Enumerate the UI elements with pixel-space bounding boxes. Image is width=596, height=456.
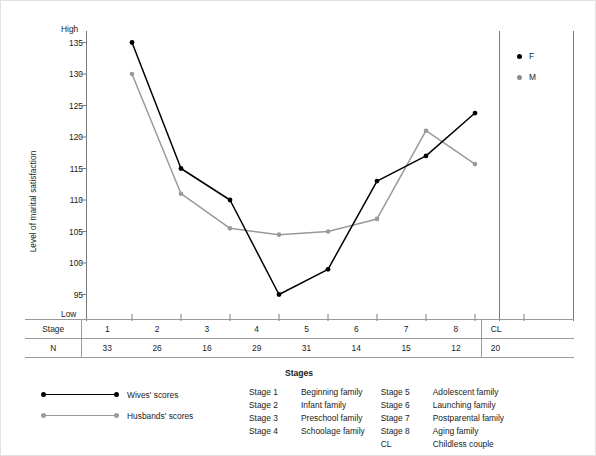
stage-definition-3-value: Preschool family xyxy=(301,413,362,423)
stage-definition-8-value: Aging family xyxy=(433,426,479,436)
y-tick-marks xyxy=(80,43,87,295)
fm-legend-item-m: M xyxy=(517,72,536,82)
table-cell-stage-4: 4 xyxy=(232,320,282,339)
data-point-f-stage-8 xyxy=(473,111,478,116)
table-rowheader-n: N xyxy=(25,339,82,358)
m-marker-icon xyxy=(517,75,522,80)
data-point-f-stage-6 xyxy=(375,179,380,184)
table-cell-n-3: 16 xyxy=(182,339,232,358)
table-cell-stage-8: 8 xyxy=(431,320,481,339)
table-cell-stage-cl: CL xyxy=(481,320,574,339)
stage-definition-3-key: Stage 3 xyxy=(249,413,301,423)
series-markers-wives xyxy=(130,40,478,297)
table-cell-n-8: 12 xyxy=(431,339,481,358)
stage-data-table: Stage 1 2 3 4 5 6 7 8 CL N 33 26 16 29 3… xyxy=(25,319,574,358)
stage-definition-7: Stage 7 Postparental family xyxy=(381,411,504,424)
stage-definition-4-value: Schoolage family xyxy=(301,426,365,436)
husbands-line-swatch-icon xyxy=(41,412,119,420)
data-point-f-stage-4 xyxy=(277,292,282,297)
x-axis-title: Stages xyxy=(1,368,596,378)
table-cell-n-2: 26 xyxy=(132,339,182,358)
data-point-m-stage-5 xyxy=(326,229,331,234)
table-cell-stage-2: 2 xyxy=(132,320,182,339)
table-cell-stage-6: 6 xyxy=(331,320,381,339)
stage-definitions-right-column: Stage 5 Adolescent family Stage 6 Launch… xyxy=(381,385,504,450)
stage-definitions: Stage 1 Beginning family Stage 2 Infant … xyxy=(249,385,504,450)
table-cell-stage-1: 1 xyxy=(82,320,132,339)
data-point-f-stage-7 xyxy=(424,154,429,159)
data-point-m-stage-3 xyxy=(228,226,233,231)
data-point-m-stage-2 xyxy=(179,191,184,196)
stage-definition-6-key: Stage 6 xyxy=(381,400,433,410)
table-cell-stage-7: 7 xyxy=(381,320,431,339)
stage-definition-1-value: Beginning family xyxy=(301,387,362,397)
wives-line-swatch-icon xyxy=(41,391,119,399)
stage-definition-1: Stage 1 Beginning family xyxy=(249,385,365,398)
stage-definition-5: Stage 5 Adolescent family xyxy=(381,385,504,398)
series-key-item-husbands: Husbands' scores xyxy=(41,405,193,426)
stage-definition-2-key: Stage 2 xyxy=(249,400,301,410)
series-key-label-wives: Wives' scores xyxy=(127,390,178,400)
stage-definition-2: Stage 2 Infant family xyxy=(249,398,365,411)
stage-definition-7-value: Postparental family xyxy=(433,413,504,423)
table-cell-n-cl: 20 xyxy=(481,339,574,358)
stage-definition-1-key: Stage 1 xyxy=(249,387,301,397)
data-point-f-stage-3 xyxy=(228,198,233,203)
stage-definition-cl: CL Childless couple xyxy=(381,437,504,450)
data-point-m-stage-4 xyxy=(277,232,282,237)
data-point-m-stage-7 xyxy=(424,128,429,133)
stage-definition-7-key: Stage 7 xyxy=(381,413,433,423)
table-cell-n-6: 14 xyxy=(331,339,381,358)
table-cell-n-1: 33 xyxy=(82,339,132,358)
series-key-item-wives: Wives' scores xyxy=(41,384,193,405)
series-key-label-husbands: Husbands' scores xyxy=(127,411,193,421)
stage-definition-cl-value: Childless couple xyxy=(433,439,494,449)
stage-definition-cl-key: CL xyxy=(381,439,433,449)
stage-definition-4: Stage 4 Schoolage family xyxy=(249,424,365,437)
table-cell-stage-5: 5 xyxy=(282,320,332,339)
stage-definition-5-value: Adolescent family xyxy=(433,387,499,397)
table-cell-n-4: 29 xyxy=(232,339,282,358)
data-point-f-stage-5 xyxy=(326,267,331,272)
table-cell-n-5: 31 xyxy=(282,339,332,358)
table-cell-stage-3: 3 xyxy=(182,320,232,339)
stage-definition-5-key: Stage 5 xyxy=(381,387,433,397)
fm-legend-item-f: F xyxy=(517,51,536,61)
stage-definition-4-key: Stage 4 xyxy=(249,426,301,436)
fm-legend: F M xyxy=(517,51,536,93)
stage-definitions-left-column: Stage 1 Beginning family Stage 2 Infant … xyxy=(249,385,365,450)
stage-definition-6: Stage 6 Launching family xyxy=(381,398,504,411)
f-marker-icon xyxy=(517,54,522,59)
data-point-m-stage-1 xyxy=(130,72,135,77)
table-cell-n-7: 15 xyxy=(381,339,431,358)
marital-satisfaction-figure: Level of marital satisfaction High Low 1… xyxy=(0,0,596,456)
series-key: Wives' scores Husbands' scores xyxy=(41,384,193,426)
stage-definition-8: Stage 8 Aging family xyxy=(381,424,504,437)
series-line-husbands xyxy=(132,74,475,235)
stage-definition-8-key: Stage 8 xyxy=(381,426,433,436)
data-point-m-stage-6 xyxy=(375,217,380,222)
table-row-n: N 33 26 16 29 31 14 15 12 20 xyxy=(25,339,574,358)
data-point-f-stage-1 xyxy=(130,40,135,45)
data-point-m-stage-8 xyxy=(473,162,478,167)
fm-legend-label-m: M xyxy=(529,72,536,82)
data-point-f-stage-2 xyxy=(179,166,184,171)
series-line-wives xyxy=(132,43,475,295)
stage-definition-6-value: Launching family xyxy=(433,400,496,410)
table-rowheader-stage: Stage xyxy=(25,320,82,339)
table-row-stage: Stage 1 2 3 4 5 6 7 8 CL xyxy=(25,320,574,339)
stage-definition-2-value: Infant family xyxy=(301,400,346,410)
stage-definition-3: Stage 3 Preschool family xyxy=(249,411,365,424)
fm-legend-label-f: F xyxy=(529,51,534,61)
